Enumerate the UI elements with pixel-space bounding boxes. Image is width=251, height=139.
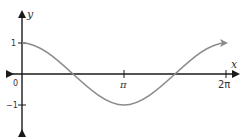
x-tick-2pi-label: 2π	[218, 79, 230, 90]
cosine-plot: y x 0 1 −1 π 2π	[0, 0, 251, 139]
origin-label: 0	[13, 79, 18, 88]
x-tick-pi-label: π	[119, 79, 127, 90]
y-axis-label: y	[26, 8, 34, 21]
x-axis-label: x	[231, 58, 238, 71]
y-tick-neg1-label: −1	[6, 101, 18, 110]
y-tick-1-label: 1	[11, 39, 16, 48]
